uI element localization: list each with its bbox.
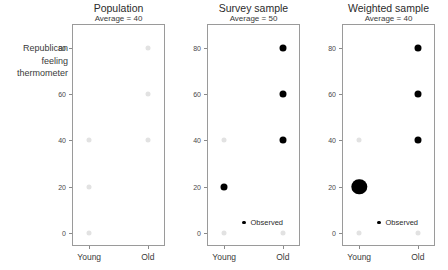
legend-marker-icon — [377, 221, 381, 225]
x-tick-mark — [283, 246, 284, 249]
population-dot — [87, 231, 92, 236]
y-tick-mark — [204, 94, 207, 95]
x-tick-label: Young — [212, 252, 236, 262]
observed-dot — [279, 137, 286, 144]
observed-dot — [414, 90, 421, 97]
x-tick-label: Old — [141, 252, 154, 262]
x-tick-mark — [359, 246, 360, 249]
y-tick-label: 60 — [44, 90, 66, 97]
y-tick-label: 40 — [44, 137, 66, 144]
y-axis-label-line-2: feeling — [0, 55, 68, 68]
y-tick-label: 40 — [179, 137, 201, 144]
population-dot — [280, 231, 285, 236]
plot-area — [207, 24, 300, 246]
panel-title: Survey sample — [207, 2, 300, 14]
x-tick-label: Young — [347, 252, 371, 262]
y-tick-label: 20 — [314, 183, 336, 190]
legend-marker-icon — [242, 221, 246, 225]
y-tick-mark — [339, 187, 342, 188]
y-tick-label: 60 — [179, 90, 201, 97]
y-tick-mark — [339, 233, 342, 234]
x-tick-mark — [89, 246, 90, 249]
observed-dot — [414, 137, 421, 144]
panel-subtitle: Average = 40 — [342, 14, 435, 23]
y-tick-mark — [69, 48, 72, 49]
legend-label: Observed — [251, 218, 284, 227]
x-tick-label: Old — [276, 252, 289, 262]
y-tick-mark — [339, 48, 342, 49]
y-tick-label: 0 — [179, 230, 201, 237]
observed-dot — [414, 44, 421, 51]
y-tick-label: 40 — [314, 137, 336, 144]
y-tick-mark — [69, 140, 72, 141]
observed-dot — [279, 90, 286, 97]
observed-dot — [221, 183, 228, 190]
x-tick-mark — [148, 246, 149, 249]
y-tick-label: 80 — [44, 44, 66, 51]
y-tick-mark — [204, 187, 207, 188]
panel-subtitle: Average = 50 — [207, 14, 300, 23]
y-tick-mark — [69, 233, 72, 234]
population-dot — [222, 138, 227, 143]
population-dot — [87, 184, 92, 189]
y-tick-mark — [69, 187, 72, 188]
observed-dot — [279, 44, 286, 51]
population-dot — [222, 231, 227, 236]
x-tick-mark — [418, 246, 419, 249]
y-tick-mark — [204, 233, 207, 234]
y-tick-mark — [69, 94, 72, 95]
legend-label: Observed — [386, 218, 419, 227]
y-tick-label: 80 — [179, 44, 201, 51]
population-dot — [87, 138, 92, 143]
y-tick-label: 20 — [44, 183, 66, 190]
legend: Observed — [242, 218, 283, 227]
y-tick-mark — [204, 48, 207, 49]
y-tick-label: 80 — [314, 44, 336, 51]
population-dot — [357, 138, 362, 143]
legend: Observed — [377, 218, 418, 227]
y-tick-label: 60 — [314, 90, 336, 97]
figure-scatter-panels: Republican feeling thermometer Populatio… — [0, 0, 448, 270]
panel-title: Weighted sample — [342, 2, 435, 14]
y-tick-mark — [204, 140, 207, 141]
y-tick-mark — [339, 140, 342, 141]
y-axis-label-line-3: thermometer — [0, 67, 68, 80]
panel-subtitle: Average = 40 — [72, 14, 165, 23]
population-dot — [415, 231, 420, 236]
x-tick-label: Old — [411, 252, 424, 262]
x-tick-mark — [224, 246, 225, 249]
y-tick-label: 0 — [44, 230, 66, 237]
population-dot — [145, 138, 150, 143]
population-dot — [357, 231, 362, 236]
y-tick-label: 20 — [179, 183, 201, 190]
population-dot — [145, 45, 150, 50]
x-tick-label: Young — [77, 252, 101, 262]
plot-area — [72, 24, 165, 246]
y-tick-label: 0 — [314, 230, 336, 237]
panel-title: Population — [72, 2, 165, 14]
plot-area — [342, 24, 435, 246]
population-dot — [145, 91, 150, 96]
y-tick-mark — [339, 94, 342, 95]
